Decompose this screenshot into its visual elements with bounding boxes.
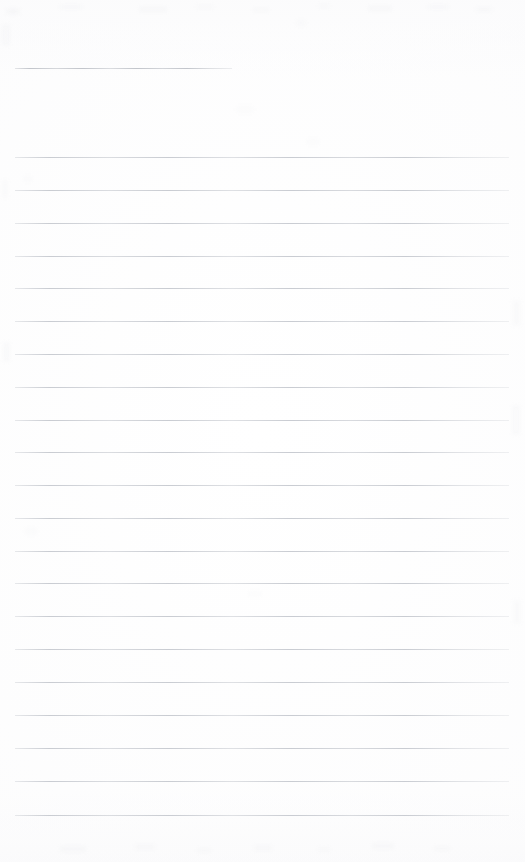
write-row-9-value [15, 390, 16, 391]
scan-speckle-5 [253, 8, 269, 12]
write-row-1-value [15, 127, 16, 128]
ruled-line-4[interactable] [15, 256, 509, 257]
write-row-8[interactable] [15, 357, 509, 387]
write-row-3-value [15, 193, 16, 194]
ruled-line-18[interactable] [15, 715, 509, 716]
header-write-row-value [15, 39, 16, 40]
ruled-line-9[interactable] [15, 420, 509, 421]
write-row-15-value [15, 586, 16, 587]
scan-speckle-23 [135, 844, 155, 850]
ruled-line-7[interactable] [15, 354, 509, 355]
write-row-4-value [15, 226, 16, 227]
write-row-20-value [15, 751, 16, 752]
write-row-19[interactable] [15, 718, 509, 748]
write-row-2[interactable] [15, 160, 509, 190]
scan-speckle-12 [236, 106, 254, 113]
write-row-14-value [15, 553, 16, 554]
ruled-line-21[interactable] [15, 815, 509, 816]
write-row-10-value [15, 422, 16, 423]
scan-speckle-26 [318, 847, 330, 852]
scan-speckle-17 [512, 300, 521, 326]
write-row-3[interactable] [15, 193, 509, 223]
write-row-19-value [15, 718, 16, 719]
scan-speckle-24 [197, 848, 211, 853]
ruled-line-14[interactable] [15, 583, 509, 584]
ruled-line-15[interactable] [15, 616, 509, 617]
write-row-6-value [15, 291, 16, 292]
scan-speckle-1 [6, 9, 20, 14]
write-row-11-value [15, 455, 16, 456]
scan-speckle-2 [60, 5, 82, 9]
ruled-line-6[interactable] [15, 321, 509, 322]
write-row-20[interactable] [15, 751, 509, 781]
write-row-17-value [15, 652, 16, 653]
write-row-8-value [15, 357, 16, 358]
scan-speckle-18 [512, 405, 520, 435]
write-row-16-value [15, 619, 16, 620]
ruled-line-16[interactable] [15, 649, 509, 650]
scan-speckle-11 [296, 20, 306, 26]
ruled-line-5[interactable] [15, 288, 509, 289]
scan-speckle-4 [196, 5, 214, 9]
ruled-line-10[interactable] [15, 452, 509, 453]
write-row-18-value [15, 685, 16, 686]
write-row-16[interactable] [15, 619, 509, 649]
scan-speckle-27 [372, 843, 394, 849]
ruled-line-2[interactable] [15, 190, 509, 191]
write-row-12-value [15, 488, 16, 489]
write-row-21-value [15, 785, 16, 786]
scan-speckle-6 [318, 4, 330, 8]
scan-speckle-16 [3, 342, 10, 362]
ruled-line-1[interactable] [15, 157, 509, 158]
ruled-line-20[interactable] [15, 781, 509, 782]
scan-speckle-21 [513, 600, 521, 624]
write-row-4[interactable] [15, 226, 509, 256]
scan-speckle-25 [254, 845, 272, 851]
write-row-18[interactable] [15, 685, 509, 715]
write-row-21[interactable] [15, 785, 509, 815]
write-row-12[interactable] [15, 488, 509, 518]
scan-speckle-14 [2, 180, 8, 198]
ruled-line-8[interactable] [15, 387, 509, 388]
ruled-line-13[interactable] [15, 551, 509, 552]
write-row-2-value [15, 160, 16, 161]
write-row-13[interactable] [15, 521, 509, 551]
header-rule-line[interactable] [15, 68, 232, 69]
ruled-line-12[interactable] [15, 518, 509, 519]
scan-speckle-22 [60, 846, 86, 852]
ruled-line-19[interactable] [15, 748, 509, 749]
write-row-9[interactable] [15, 390, 509, 420]
scan-speckle-9 [476, 7, 492, 12]
write-row-6[interactable] [15, 291, 509, 321]
write-row-13-value [15, 521, 16, 522]
scan-speckle-7 [368, 6, 392, 11]
write-row-11[interactable] [15, 455, 509, 485]
ruled-line-17[interactable] [15, 682, 509, 683]
write-row-5[interactable] [15, 258, 509, 288]
ruled-line-3[interactable] [15, 223, 509, 224]
write-row-5-value [15, 258, 16, 259]
write-row-1[interactable] [15, 127, 509, 157]
scan-speckle-10 [2, 24, 10, 46]
scan-speckle-28 [434, 846, 450, 851]
ruled-line-11[interactable] [15, 485, 509, 486]
write-row-7[interactable] [15, 324, 509, 354]
scan-speckle-8 [428, 5, 448, 9]
scan-speckle-3 [139, 7, 167, 12]
paper-page [0, 0, 525, 862]
write-row-17[interactable] [15, 652, 509, 682]
write-row-7-value [15, 324, 16, 325]
header-write-row[interactable] [15, 39, 232, 68]
write-row-15[interactable] [15, 586, 509, 616]
write-row-14[interactable] [15, 553, 509, 583]
write-row-10[interactable] [15, 422, 509, 452]
